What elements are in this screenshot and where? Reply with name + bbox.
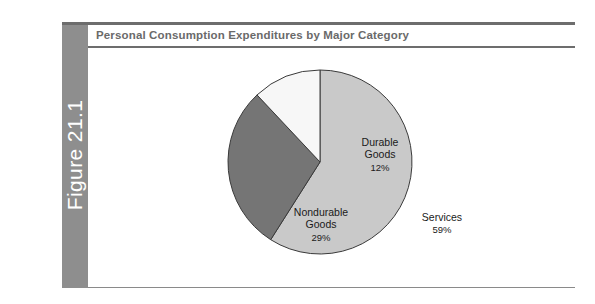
footer-rule [88,287,575,288]
figure-title: Personal Consumption Expenditures by Maj… [96,25,409,45]
pie-label-nondurable-goods: Nondurable Goods 29% [282,206,360,243]
pie-label-durable-goods: Durable Goods 12% [347,136,413,173]
chart-plot-area: Durable Goods 12% Nondurable Goods 29% S… [88,48,575,287]
pie-label-nondurable-goods-line1: Nondurable [282,206,360,218]
pie-chart [88,48,575,287]
pie-label-durable-goods-line2: Goods [347,148,413,160]
figure-container: Figure 21.1 Personal Consumption Expendi… [0,0,595,304]
figure-number-tab: Figure 21.1 [62,22,88,288]
figure-number-label: Figure 21.1 [63,100,87,211]
pie-label-services-line1: Services [411,211,473,223]
pie-label-nondurable-goods-line2: Goods [282,218,360,230]
pie-label-services: Services 59% [411,211,473,236]
pie-label-durable-goods-value: 12% [347,162,413,173]
pie-label-services-value: 59% [411,224,473,235]
pie-label-nondurable-goods-value: 29% [282,232,360,243]
pie-label-durable-goods-line1: Durable [347,136,413,148]
